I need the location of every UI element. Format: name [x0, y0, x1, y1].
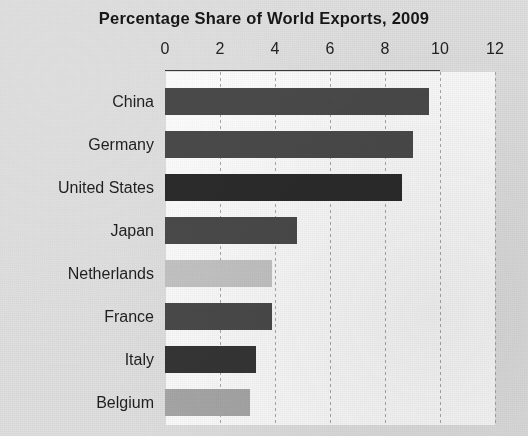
category-label-germany: Germany — [88, 131, 154, 158]
bars-layer — [165, 72, 495, 425]
bar-japan — [165, 217, 297, 244]
gridline — [495, 72, 496, 425]
bar-germany — [165, 131, 413, 158]
category-label-italy: Italy — [125, 346, 154, 373]
category-label-united-states: United States — [58, 174, 154, 201]
x-tick-label: 6 — [326, 40, 335, 58]
bar-china — [165, 88, 429, 115]
bar-france — [165, 303, 272, 330]
axis-top-rule — [165, 70, 440, 71]
category-label-china: China — [112, 88, 154, 115]
x-tick-label: 4 — [271, 40, 280, 58]
category-label-netherlands: Netherlands — [68, 260, 154, 287]
bar-belgium — [165, 389, 250, 416]
bar-united-states — [165, 174, 402, 201]
category-label-france: France — [104, 303, 154, 330]
x-tick-label: 10 — [431, 40, 449, 58]
bar-netherlands — [165, 260, 272, 287]
chart-title: Percentage Share of World Exports, 2009 — [0, 9, 528, 28]
x-tick-label: 0 — [161, 40, 170, 58]
x-tick-label: 12 — [486, 40, 504, 58]
category-label-belgium: Belgium — [96, 389, 154, 416]
bar-chart-figure: Percentage Share of World Exports, 2009 … — [0, 0, 528, 436]
x-tick-label: 8 — [381, 40, 390, 58]
x-axis-tick-labels: 024681012 — [0, 40, 528, 64]
x-tick-label: 2 — [216, 40, 225, 58]
category-label-japan: Japan — [110, 217, 154, 244]
bar-italy — [165, 346, 256, 373]
category-axis-labels: ChinaGermanyUnited StatesJapanNetherland… — [0, 72, 160, 425]
